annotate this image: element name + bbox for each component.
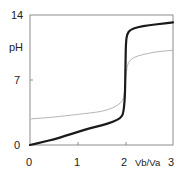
titration-chart: 14 pH 7 0 0 1 2 Vb/Va 3 bbox=[0, 0, 183, 174]
x-tick-label-2: 2 bbox=[121, 156, 127, 168]
weak-acid-curve bbox=[30, 50, 173, 119]
y-axis-title: pH bbox=[9, 41, 23, 53]
strong-acid-curve bbox=[30, 22, 173, 145]
x-tick-label-1: 1 bbox=[74, 156, 80, 168]
y-tick-label-7: 7 bbox=[14, 74, 20, 86]
y-tick-label-0: 0 bbox=[14, 139, 20, 151]
y-tick-label-14: 14 bbox=[11, 9, 23, 21]
x-tick-label-3: 3 bbox=[168, 156, 174, 168]
x-axis-title: Vb/Va bbox=[135, 157, 161, 168]
x-tick-label-0: 0 bbox=[26, 156, 32, 168]
